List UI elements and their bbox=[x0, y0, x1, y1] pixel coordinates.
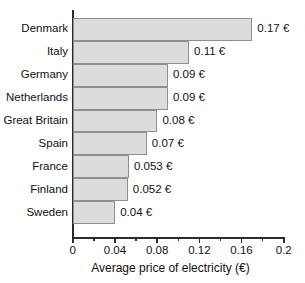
category-label: Netherlands bbox=[0, 92, 68, 104]
x-tick-major bbox=[283, 237, 285, 243]
x-tick-label: 0.16 bbox=[230, 245, 252, 257]
bar bbox=[73, 87, 168, 110]
bar bbox=[73, 201, 115, 224]
x-tick-label: 0.12 bbox=[188, 245, 210, 257]
category-label: Sweden bbox=[0, 207, 68, 219]
x-tick-label: 0.2 bbox=[276, 245, 292, 257]
category-label: Spain bbox=[0, 138, 68, 150]
category-label: France bbox=[0, 161, 68, 173]
bar-chart: DenmarkItalyGermanyNetherlandsGreat Brit… bbox=[0, 0, 305, 283]
x-tick-major bbox=[114, 237, 116, 243]
bar bbox=[73, 132, 147, 155]
x-tick-major bbox=[156, 237, 158, 243]
bar-value-label: 0.052 € bbox=[133, 184, 171, 196]
plot-area: 0.17 €0.11 €0.09 €0.09 €0.08 €0.07 €0.05… bbox=[73, 18, 284, 224]
x-tick-major bbox=[72, 237, 74, 243]
bar-row: 0.07 € bbox=[73, 132, 284, 155]
x-tick-major bbox=[241, 237, 243, 243]
bar-row: 0.04 € bbox=[73, 201, 284, 224]
bar-row: 0.09 € bbox=[73, 64, 284, 87]
bar bbox=[73, 155, 129, 178]
bar bbox=[73, 178, 128, 201]
bar-value-label: 0.11 € bbox=[194, 47, 225, 59]
x-tick-minor bbox=[220, 237, 222, 241]
bar bbox=[73, 18, 252, 41]
bar bbox=[73, 64, 168, 87]
category-label: Italy bbox=[0, 46, 68, 58]
bar-value-label: 0.17 € bbox=[257, 24, 289, 36]
bar-row: 0.17 € bbox=[73, 18, 284, 41]
bar-row: 0.053 € bbox=[73, 155, 284, 178]
bar-row: 0.052 € bbox=[73, 178, 284, 201]
bar-value-label: 0.053 € bbox=[134, 161, 172, 173]
x-tick-minor bbox=[262, 237, 264, 241]
x-tick-label: 0.04 bbox=[104, 245, 126, 257]
x-tick-major bbox=[199, 237, 201, 243]
x-tick-label: 0.08 bbox=[146, 245, 168, 257]
category-label: Great Britain bbox=[0, 115, 68, 127]
bar-row: 0.09 € bbox=[73, 87, 284, 110]
bar-value-label: 0.07 € bbox=[152, 138, 184, 150]
bar bbox=[73, 110, 157, 133]
x-tick-minor bbox=[135, 237, 137, 241]
category-label: Germany bbox=[0, 69, 68, 81]
bar-row: 0.11 € bbox=[73, 41, 284, 64]
bar-value-label: 0.08 € bbox=[162, 115, 194, 127]
x-tick-minor bbox=[178, 237, 180, 241]
category-label: Denmark bbox=[0, 23, 68, 35]
bar-value-label: 0.09 € bbox=[173, 69, 205, 81]
bar-value-label: 0.04 € bbox=[120, 207, 152, 219]
category-label: Finland bbox=[0, 184, 68, 196]
bar-value-label: 0.09 € bbox=[173, 92, 205, 104]
bar-row: 0.08 € bbox=[73, 110, 284, 133]
x-tick-minor bbox=[93, 237, 95, 241]
x-axis-title: Average price of electricity (€) bbox=[0, 262, 305, 274]
x-tick-label: 0 bbox=[70, 245, 76, 257]
bar bbox=[73, 41, 189, 64]
